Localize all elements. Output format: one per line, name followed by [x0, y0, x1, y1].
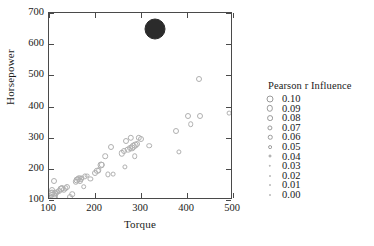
legend-item: 0.01	[262, 180, 372, 190]
legend-marker-icon	[262, 152, 278, 162]
legend-item: 0.02	[262, 171, 372, 181]
data-point	[197, 113, 203, 119]
x-tick-label: 100	[28, 202, 68, 213]
data-point	[132, 154, 138, 160]
data-point	[51, 178, 57, 184]
legend: Pearson r Influence 0.100.090.080.070.06…	[262, 80, 372, 200]
data-point	[108, 144, 114, 150]
legend-marker-icon	[262, 94, 278, 104]
legend-item: 0.04	[262, 152, 372, 162]
x-tick-top	[233, 13, 234, 18]
legend-marker-icon	[262, 132, 278, 142]
data-point	[128, 134, 134, 140]
data-point	[196, 76, 202, 82]
data-point	[105, 172, 110, 177]
legend-marker-icon	[262, 180, 278, 190]
data-point	[146, 143, 152, 149]
y-tick-label: 300	[4, 132, 44, 142]
data-point	[138, 136, 144, 142]
legend-item: 0.08	[262, 113, 372, 123]
legend-item: 0.00	[262, 190, 372, 200]
scatter-plot-figure: Horsepower 100200300400500600700 1002003…	[0, 0, 374, 246]
data-point	[173, 128, 179, 134]
legend-marker-icon	[262, 113, 278, 123]
x-axis-title: Torque	[48, 218, 232, 230]
x-tick-label: 300	[120, 202, 160, 213]
data-point	[176, 149, 181, 154]
legend-marker-icon	[262, 161, 278, 171]
y-tick-label: 600	[4, 38, 44, 48]
data-point	[188, 121, 194, 127]
y-tick-label: 700	[4, 7, 44, 17]
x-tick-label: 400	[166, 202, 206, 213]
highlighted-data-point	[144, 18, 165, 39]
legend-entries: 0.100.090.080.070.060.050.040.030.020.01…	[262, 94, 372, 200]
legend-marker-icon	[262, 190, 278, 200]
legend-marker-icon	[262, 104, 278, 114]
legend-item: 0.06	[262, 132, 372, 142]
x-tick-label: 500	[212, 202, 252, 213]
data-point	[111, 172, 116, 177]
y-tick-right	[226, 200, 231, 201]
data-point	[69, 192, 75, 198]
legend-marker-icon	[262, 142, 278, 152]
data-point	[134, 141, 140, 147]
legend-item: 0.09	[262, 104, 372, 114]
y-tick-label: 200	[4, 163, 44, 173]
data-point	[102, 154, 108, 160]
y-tick-label: 500	[4, 69, 44, 79]
legend-item: 0.10	[262, 94, 372, 104]
x-tick	[233, 193, 234, 198]
data-point	[122, 165, 127, 170]
legend-item: 0.07	[262, 123, 372, 133]
data-point	[81, 184, 87, 190]
legend-marker-icon	[262, 123, 278, 133]
data-points-layer	[49, 13, 231, 198]
legend-marker-icon	[262, 171, 278, 181]
plot-area	[48, 12, 232, 199]
legend-label: 0.00	[278, 190, 300, 200]
x-tick-label: 200	[74, 202, 114, 213]
data-point	[88, 176, 93, 181]
legend-item: 0.05	[262, 142, 372, 152]
data-point	[227, 110, 231, 115]
data-point	[99, 162, 105, 168]
legend-title: Pearson r Influence	[268, 80, 372, 91]
y-tick-label: 400	[4, 101, 44, 111]
data-point	[64, 184, 70, 190]
legend-item: 0.03	[262, 161, 372, 171]
data-point	[185, 113, 191, 119]
y-tick	[49, 200, 54, 201]
